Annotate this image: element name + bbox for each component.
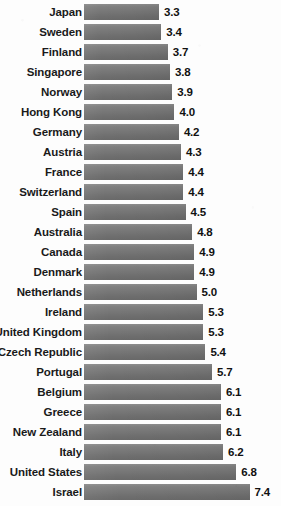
category-label: Finland (42, 44, 82, 60)
bar (84, 144, 181, 160)
value-label: 4.0 (179, 104, 194, 120)
category-label: Sweden (39, 24, 82, 40)
value-label: 4.4 (188, 164, 203, 180)
bar-row: Finland3.7 (0, 44, 281, 60)
bar-row: Netherlands5.0 (0, 284, 281, 300)
value-label: 6.2 (228, 444, 243, 460)
category-label: New Zealand (13, 424, 82, 440)
bar (84, 444, 223, 460)
category-label: Israel (53, 484, 82, 500)
category-label: Greece (44, 404, 82, 420)
bar-row: Israel7.4 (0, 484, 281, 500)
category-label: Czech Republic (0, 344, 82, 360)
bar (84, 224, 192, 240)
bar-row: Denmark4.9 (0, 264, 281, 280)
category-label: Italy (59, 444, 82, 460)
bar (84, 384, 221, 400)
bar-row: Czech Republic5.4 (0, 344, 281, 360)
bar (84, 64, 170, 80)
category-label: Switzerland (19, 184, 82, 200)
bar (84, 124, 179, 140)
bar-chart: Japan3.3Sweden3.4Finland3.7Singapore3.8N… (0, 0, 281, 506)
category-label: Hong Kong (21, 104, 82, 120)
bar-row: Australia4.8 (0, 224, 281, 240)
value-label: 4.9 (199, 244, 214, 260)
bar (84, 184, 183, 200)
value-label: 5.0 (202, 284, 217, 300)
value-label: 6.1 (226, 384, 241, 400)
bar-row: France4.4 (0, 164, 281, 180)
bar-row: Belgium6.1 (0, 384, 281, 400)
bar-row: New Zealand6.1 (0, 424, 281, 440)
category-label: Australia (34, 224, 82, 240)
bar (84, 164, 183, 180)
bar-row: Ireland5.3 (0, 304, 281, 320)
bar (84, 264, 194, 280)
bar (84, 284, 197, 300)
bar-row: Singapore3.8 (0, 64, 281, 80)
bar-row: Canada4.9 (0, 244, 281, 260)
bar-row: Norway3.9 (0, 84, 281, 100)
category-label: Japan (49, 4, 82, 20)
bar (84, 104, 174, 120)
category-label: Netherlands (17, 284, 82, 300)
value-label: 4.8 (197, 224, 212, 240)
value-label: 4.2 (184, 124, 199, 140)
bar (84, 304, 203, 320)
category-label: Norway (41, 84, 82, 100)
value-label: 4.4 (188, 184, 203, 200)
category-label: Spain (51, 204, 82, 220)
bar (84, 204, 186, 220)
value-label: 3.3 (164, 4, 179, 20)
bar-row: Italy6.2 (0, 444, 281, 460)
value-label: 3.9 (177, 84, 192, 100)
bar-row: United Kingdom5.3 (0, 324, 281, 340)
bar-row: Japan3.3 (0, 4, 281, 20)
bar (84, 404, 221, 420)
value-label: 7.4 (255, 484, 270, 500)
bar-row: Switzerland4.4 (0, 184, 281, 200)
bar (84, 84, 172, 100)
value-label: 4.5 (191, 204, 206, 220)
value-label: 5.7 (217, 364, 232, 380)
category-label: Canada (41, 244, 82, 260)
value-label: 5.3 (208, 324, 223, 340)
value-label: 3.4 (166, 24, 181, 40)
category-label: Singapore (27, 64, 82, 80)
bar (84, 364, 212, 380)
bar-row: United States6.8 (0, 464, 281, 480)
bar (84, 24, 161, 40)
bar (84, 4, 159, 20)
bar (84, 424, 221, 440)
value-label: 3.7 (173, 44, 188, 60)
category-label: Belgium (37, 384, 82, 400)
value-label: 4.9 (199, 264, 214, 280)
category-label: United Kingdom (0, 324, 82, 340)
bar-row: Austria4.3 (0, 144, 281, 160)
bar (84, 244, 194, 260)
value-label: 5.4 (210, 344, 225, 360)
category-label: Portugal (36, 364, 82, 380)
value-label: 4.3 (186, 144, 201, 160)
bar (84, 344, 205, 360)
bar-row: Germany4.2 (0, 124, 281, 140)
bar (84, 44, 168, 60)
category-label: France (45, 164, 82, 180)
value-label: 6.1 (226, 424, 241, 440)
value-label: 6.1 (226, 404, 241, 420)
bar-row: Sweden3.4 (0, 24, 281, 40)
category-label: Germany (33, 124, 82, 140)
bar-row: Portugal5.7 (0, 364, 281, 380)
bar (84, 324, 203, 340)
category-label: Denmark (33, 264, 82, 280)
value-label: 6.8 (241, 464, 256, 480)
bar-row: Greece6.1 (0, 404, 281, 420)
value-label: 5.3 (208, 304, 223, 320)
bar-row: Spain4.5 (0, 204, 281, 220)
bar-row: Hong Kong4.0 (0, 104, 281, 120)
value-label: 3.8 (175, 64, 190, 80)
category-label: Austria (43, 144, 82, 160)
bar (84, 484, 250, 500)
bar (84, 464, 236, 480)
category-label: Ireland (45, 304, 82, 320)
